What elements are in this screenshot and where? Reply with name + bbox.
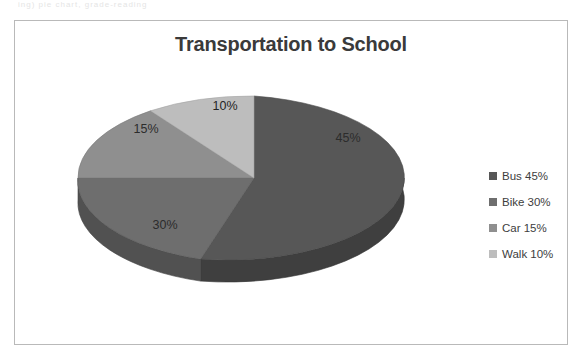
chart-legend: Bus 45% Bike 30% Car 15% Walk 10% [489, 163, 579, 267]
legend-label-bike: Bike 30% [502, 196, 551, 208]
pie-data-label-bike: 30% [152, 218, 177, 232]
legend-swatch-icon-car [489, 224, 497, 232]
legend-label-bus: Bus 45% [502, 170, 548, 182]
pie-chart-svg: 45% 30% 15% 10% [15, 69, 477, 331]
chart-title: Transportation to School [15, 33, 567, 56]
pie-data-label-bus: 45% [335, 131, 360, 145]
legend-item-car[interactable]: Car 15% [489, 215, 579, 241]
legend-label-car: Car 15% [502, 222, 547, 234]
scan-artifact-text: ing) pie chart, grade-reading [0, 0, 586, 14]
pie-plot-area: 45% 30% 15% 10% [15, 69, 477, 331]
legend-item-walk[interactable]: Walk 10% [489, 241, 579, 267]
chart-frame: Transportation to School 45% [14, 20, 568, 345]
legend-swatch-icon-bus [489, 172, 497, 180]
pie-data-label-car: 15% [133, 122, 158, 136]
legend-label-walk: Walk 10% [502, 248, 553, 260]
pie-data-label-walk: 10% [212, 99, 237, 113]
legend-item-bike[interactable]: Bike 30% [489, 189, 579, 215]
legend-swatch-icon-bike [489, 198, 497, 206]
legend-item-bus[interactable]: Bus 45% [489, 163, 579, 189]
legend-swatch-icon-walk [489, 250, 497, 258]
